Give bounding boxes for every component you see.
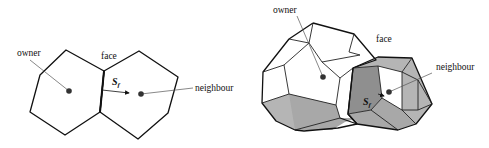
neighbour-leader-2d: [141, 88, 193, 94]
owner-center-2d: [66, 88, 72, 94]
diagram-3d: owner face neighbour Sf: [262, 5, 475, 131]
owner-leader-2d: [30, 60, 69, 91]
face-vector-arrow-2d: [102, 90, 129, 93]
shared-face-2d: [100, 71, 104, 112]
neighbour-label-2d: neighbour: [195, 83, 234, 93]
neighbour-center-2d: [138, 91, 144, 97]
owner-inner-edge: [263, 43, 309, 72]
neighbour-center-3d: [386, 89, 392, 95]
face-vector-label-2d: Sf: [112, 76, 121, 89]
owner-label-2d: owner: [17, 48, 42, 58]
owner-label-3d: owner: [273, 5, 298, 15]
neighbour-label-3d: neighbour: [436, 62, 475, 72]
face-label-3d: face: [376, 34, 392, 44]
owner-center-3d: [320, 74, 326, 80]
diagram-2d: owner face neighbour Sf: [17, 48, 234, 139]
owner-inner-edge: [349, 34, 360, 55]
mesh-cells-figure: owner face neighbour Sf: [0, 0, 489, 148]
face-label-2d: face: [101, 51, 117, 61]
owner-inner-edge: [340, 68, 353, 78]
